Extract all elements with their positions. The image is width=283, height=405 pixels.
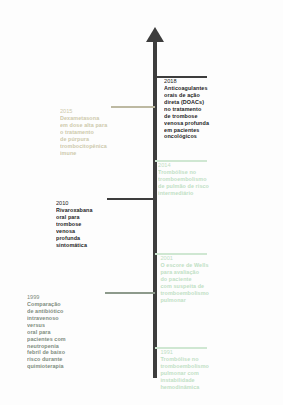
event-year-2015: 2015 bbox=[60, 109, 107, 115]
event-text-line: profunda bbox=[56, 236, 93, 242]
event-text-line: oral para bbox=[27, 330, 66, 336]
event-text-line: versus bbox=[27, 323, 66, 329]
event-text-line: sintomática bbox=[56, 243, 93, 249]
event-year-2014: 2014 bbox=[158, 163, 209, 169]
event-text-line: do paciente bbox=[160, 277, 209, 283]
event-text-line: imune bbox=[60, 151, 107, 157]
event-label-stack-2010: 2010Rivaroxabanaoral paratrombosevenosap… bbox=[56, 200, 93, 249]
event-text-line: intermediário bbox=[158, 191, 209, 197]
event-label-stack-1991: 1991Trombólise notromboembolismopulmonar… bbox=[160, 349, 209, 391]
event-text-line: venosa bbox=[56, 229, 93, 235]
event-label-stack-2001: 2001O escore de Wellspara avaliaçãodo pa… bbox=[160, 255, 209, 304]
event-connector-2015 bbox=[111, 106, 155, 108]
event-connector-1999 bbox=[105, 292, 155, 294]
timeline-axis bbox=[153, 40, 157, 378]
event-text-line: direta (DOACs) bbox=[164, 100, 209, 106]
event-text-line: de pulmão de risco bbox=[158, 184, 209, 190]
event-label-stack-2014: 2014Trombólise notromboembolismode pulmã… bbox=[158, 162, 209, 197]
event-year-2001: 2001 bbox=[160, 256, 209, 262]
event-text-line: oncológicos bbox=[164, 134, 209, 140]
event-text-line: intravenoso bbox=[27, 316, 66, 322]
event-text-line: de púrpura bbox=[60, 137, 107, 143]
event-text-line: tromboembolismo bbox=[160, 291, 209, 297]
event-text-line: pulmonar bbox=[160, 298, 209, 304]
event-text-line: trombose bbox=[56, 222, 93, 228]
event-label-stack-2015: 2015Dexametasonaem dose alta parao trata… bbox=[60, 108, 107, 157]
event-year-2010: 2010 bbox=[56, 201, 93, 207]
event-text-line: pulmonar com bbox=[160, 371, 209, 377]
event-label-stack-2018: 2018Anticoagulantesorais de açãodireta (… bbox=[164, 78, 209, 141]
event-year-2018: 2018 bbox=[164, 79, 209, 85]
event-text-line: instabilidade bbox=[160, 378, 209, 384]
event-text-line: com suspeita de bbox=[160, 284, 209, 290]
event-year-1999: 1999 bbox=[27, 295, 66, 301]
event-text-line: o tratamento bbox=[60, 130, 107, 136]
event-text-line: venosa profunda bbox=[164, 121, 209, 127]
event-text-line: no tratamento bbox=[164, 107, 209, 113]
event-text-line: pacientes com bbox=[27, 337, 66, 343]
event-year-1991: 1991 bbox=[160, 350, 209, 356]
event-text-line: quimioterapia bbox=[27, 364, 66, 370]
event-text-line: trombocitopênica bbox=[60, 144, 107, 150]
event-text-line: hemodinâmica bbox=[160, 385, 209, 391]
event-connector-2010 bbox=[107, 198, 155, 200]
event-text-line: de trombose bbox=[164, 114, 209, 120]
event-label-stack-1999: 1999Comparaçãode antibióticointravenosov… bbox=[27, 294, 66, 370]
